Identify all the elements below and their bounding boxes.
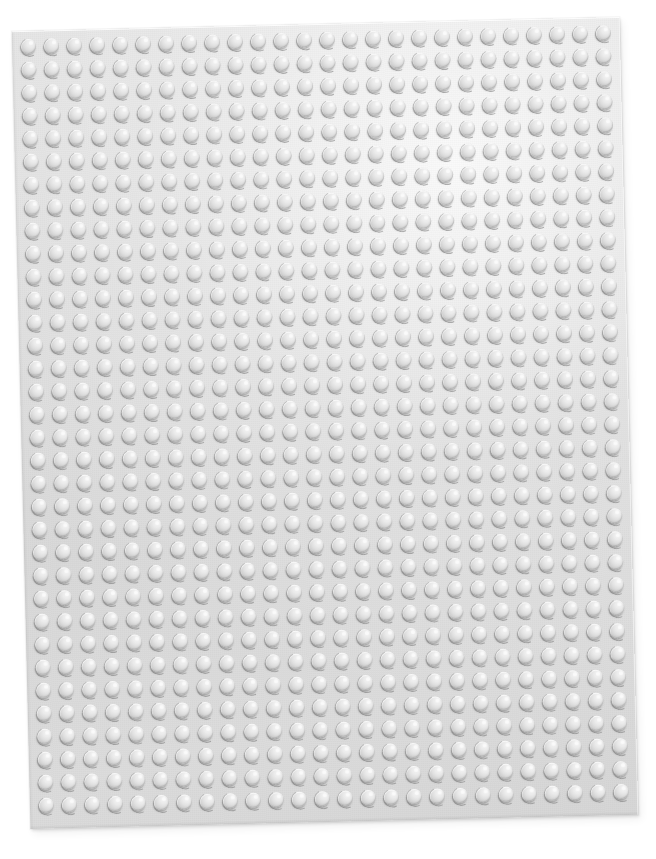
baseplate-stud (537, 464, 552, 479)
baseplate-stud (244, 724, 259, 739)
baseplate-stud (429, 765, 444, 780)
baseplate-stud (550, 26, 565, 41)
baseplate-stud (441, 305, 456, 320)
baseplate-stud (165, 311, 180, 326)
baseplate-stud (206, 80, 221, 95)
baseplate-stud (164, 242, 179, 257)
baseplate-stud (286, 539, 301, 554)
baseplate-stud (400, 490, 415, 505)
baseplate-stud (597, 71, 612, 86)
baseplate-stud (465, 327, 480, 342)
baseplate-stud (511, 326, 526, 341)
baseplate-stud (58, 659, 73, 674)
baseplate-stud (277, 148, 292, 163)
baseplate-stud (509, 234, 524, 249)
baseplate-stud (139, 151, 154, 166)
baseplate-stud (310, 584, 325, 599)
baseplate-stud (33, 568, 48, 583)
baseplate-stud (351, 376, 366, 391)
baseplate-stud (168, 426, 183, 441)
baseplate-stud (85, 796, 100, 811)
baseplate-stud (510, 303, 525, 318)
baseplate-stud (138, 128, 153, 143)
baseplate-stud (528, 96, 543, 111)
baseplate-stud (182, 58, 197, 73)
baseplate-stud (163, 196, 178, 211)
baseplate-stud (208, 149, 223, 164)
baseplate-stud (488, 327, 503, 342)
baseplate-stud (31, 453, 46, 468)
baseplate-stud (173, 656, 188, 671)
baseplate-stud (184, 127, 199, 142)
baseplate-stud (587, 624, 602, 639)
baseplate-stud (61, 751, 76, 766)
baseplate-stud (350, 353, 365, 368)
baseplate-stud (443, 397, 458, 412)
baseplate-stud (262, 516, 277, 531)
baseplate-stud (448, 604, 463, 619)
baseplate-stud (425, 581, 440, 596)
baseplate-stud (160, 81, 175, 96)
baseplate-stud (372, 307, 387, 322)
baseplate-stud (118, 243, 133, 258)
baseplate-stud (557, 325, 572, 340)
baseplate-stud (300, 170, 315, 185)
baseplate-stud (568, 785, 583, 800)
baseplate-stud (77, 452, 92, 467)
baseplate-stud (194, 541, 209, 556)
baseplate-stud (510, 280, 525, 295)
baseplate-stud (322, 124, 337, 139)
baseplate-stud (263, 539, 278, 554)
baseplate-stud (366, 31, 381, 46)
baseplate-stud (389, 53, 404, 68)
baseplate-stud (101, 520, 116, 535)
baseplate-stud (473, 672, 488, 687)
baseplate-stud (448, 581, 463, 596)
baseplate-stud (98, 382, 113, 397)
baseplate-stud (200, 794, 215, 809)
baseplate-stud (602, 278, 617, 293)
baseplate-stud (485, 189, 500, 204)
baseplate-stud (176, 771, 191, 786)
baseplate-stud (472, 626, 487, 641)
baseplate-stud (303, 308, 318, 323)
baseplate-stud (345, 146, 360, 161)
baseplate-stud (83, 704, 98, 719)
baseplate-stud (381, 697, 396, 712)
baseplate-stud (384, 789, 399, 804)
baseplate-stud (123, 473, 138, 488)
baseplate-stud (336, 698, 351, 713)
baseplate-stud (269, 792, 284, 807)
baseplate-stud (35, 637, 50, 652)
baseplate-container (0, 0, 656, 859)
baseplate-stud (130, 772, 145, 787)
baseplate-stud (283, 424, 298, 439)
photo-canvas (0, 0, 656, 859)
baseplate-stud (379, 605, 394, 620)
baseplate-stud (27, 315, 42, 330)
baseplate-stud (603, 324, 618, 339)
baseplate-stud (169, 472, 184, 487)
baseplate-stud (598, 140, 613, 155)
baseplate-stud (240, 540, 255, 555)
baseplate-stud (357, 652, 372, 667)
baseplate-stud (220, 678, 235, 693)
baseplate-stud (153, 772, 168, 787)
baseplate-stud (102, 566, 117, 581)
baseplate-stud (575, 118, 590, 133)
baseplate-stud (452, 765, 467, 780)
baseplate-stud (552, 118, 567, 133)
baseplate-stud (399, 444, 414, 459)
baseplate-stud (30, 430, 45, 445)
baseplate-stud (309, 561, 324, 576)
baseplate-stud (49, 245, 64, 260)
baseplate-stud (449, 650, 464, 665)
baseplate-stud (81, 658, 96, 673)
baseplate-stud (552, 141, 567, 156)
baseplate-stud (580, 348, 595, 363)
baseplate-stud (476, 787, 491, 802)
baseplate-stud (493, 557, 508, 572)
baseplate-stud (332, 538, 347, 553)
baseplate-stud (125, 565, 140, 580)
baseplate-stud (586, 578, 601, 593)
